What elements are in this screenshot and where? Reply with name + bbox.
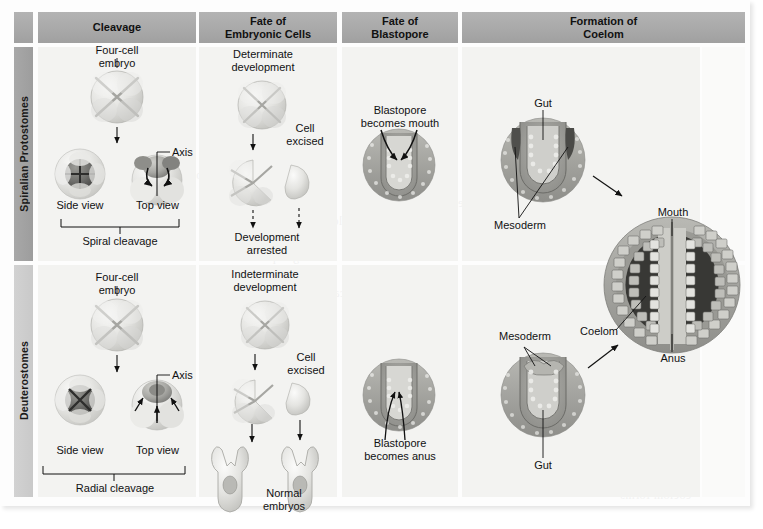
- label-deuterostome-mesoderm: Mesoderm: [485, 330, 565, 343]
- column-header-fate-of-embryonic-cells: Fate of Embryonic Cells: [199, 12, 337, 43]
- panel-deuterostome-blastopore: [342, 265, 458, 497]
- column-header-cleavage: Cleavage: [38, 12, 196, 43]
- label-protostome-top-view: Top view: [125, 199, 190, 212]
- label-normal-embryos: Normal embryos: [248, 487, 320, 512]
- label-final-coelom: Coelom: [572, 325, 618, 338]
- label-deuterostome-four-cell-embryo: Four-cell embryo: [67, 271, 167, 296]
- column-header-fate-blastopore-line2: Blastopore: [371, 28, 428, 41]
- label-final-mouth: Mouth: [652, 206, 694, 219]
- panel-deuterostome-fate-cells: [199, 265, 337, 497]
- label-protostome-gut: Gut: [525, 97, 561, 110]
- row-label-deuterostomes: Deuterostomes: [14, 265, 33, 497]
- column-header-fate-cells-line2: Embryonic Cells: [225, 28, 311, 41]
- label-protostome-spiral-cleavage: Spiral cleavage: [60, 235, 180, 248]
- column-header-coelom-line1: Formation of: [570, 15, 637, 28]
- panel-deuterostome-coelom: [462, 265, 700, 497]
- label-final-anus: Anus: [653, 352, 693, 365]
- label-deuterostome-cell-excised: Cell excised: [278, 351, 334, 376]
- column-header-cleavage-line1: Cleavage: [93, 21, 141, 34]
- label-protostome-axis: Axis: [172, 146, 212, 159]
- label-protostome-cell-excised: Cell excised: [277, 122, 333, 147]
- column-header-coelom-line2: Coelom: [570, 28, 637, 41]
- label-four-cell-line2: embryo: [67, 57, 167, 70]
- panel-protostome-fate-cells: [199, 47, 337, 261]
- column-header-fate-cells-line1: Fate of: [225, 15, 311, 28]
- label-deuterostome-axis: Axis: [172, 369, 212, 382]
- column-header-fate-of-blastopore: Fate of Blastopore: [342, 12, 458, 43]
- header-row-label-spacer: [14, 12, 33, 43]
- column-header-formation-of-coelom: Formation of Coelom: [462, 12, 745, 43]
- label-deuterostome-radial-cleavage: Radial cleavage: [55, 482, 175, 495]
- label-deuterostome-top-view: Top view: [125, 444, 190, 457]
- label-four-cell-line1: Four-cell: [67, 44, 167, 57]
- row-label-spiralian-protostomes-text: Spiralian Protostomes: [18, 96, 30, 212]
- label-blastopore-becomes-anus: Blastopore becomes anus: [350, 437, 450, 462]
- panel-coelom-final-top: [702, 47, 745, 261]
- label-protostome-mesoderm: Mesoderm: [480, 219, 560, 232]
- figure-page: ferences in thedevelopmentthe two majorg…: [0, 0, 763, 529]
- column-header-fate-blastopore-line1: Fate of: [371, 15, 428, 28]
- row-label-deuterostomes-text: Deuterostomes: [18, 341, 30, 420]
- label-protostome-side-view: Side view: [45, 199, 115, 212]
- label-deuterostome-gut: Gut: [525, 459, 561, 472]
- label-development-arrested: Development arrested: [212, 231, 322, 256]
- label-deuterostome-side-view: Side view: [45, 444, 115, 457]
- panel-protostome-blastopore: [342, 47, 458, 261]
- row-label-spiralian-protostomes: Spiralian Protostomes: [14, 47, 33, 261]
- label-indeterminate-development: Indeterminate development: [206, 268, 324, 293]
- label-determinate-development: Determinate development: [208, 48, 318, 73]
- label-blastopore-becomes-mouth: Blastopore becomes mouth: [348, 104, 452, 129]
- label-protostome-four-cell-embryo: Four-cell embryo: [67, 44, 167, 69]
- panel-coelom-final-bottom: [702, 265, 745, 497]
